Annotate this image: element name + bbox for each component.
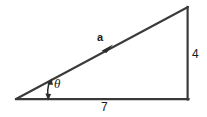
vector-label-a: a bbox=[97, 32, 103, 43]
vertical-side-label: 4 bbox=[192, 48, 199, 60]
horizontal-side-label: 7 bbox=[101, 101, 108, 113]
vector-triangle-figure: a θ 4 7 bbox=[0, 0, 207, 117]
angle-label-theta: θ bbox=[54, 77, 60, 90]
hypotenuse-vector-line bbox=[16, 7, 188, 99]
